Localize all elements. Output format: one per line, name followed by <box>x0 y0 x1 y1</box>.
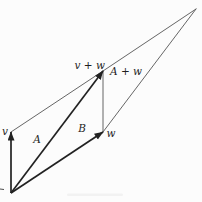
segment-vtip-to-vplusw <box>11 71 103 132</box>
label-a-plus-w: A + w <box>109 65 142 77</box>
scan-artifacts-layer <box>0 189 123 196</box>
label-v-plus-w: v + w <box>75 59 105 71</box>
page: vv + wA + wABw <box>0 0 202 202</box>
label-a: A <box>32 133 41 145</box>
label-b: B <box>77 122 86 134</box>
labels-layer: vv + wA + wABw <box>2 59 142 146</box>
label-w: w <box>107 127 116 139</box>
vector-v-plus-w-arrow <box>11 71 103 193</box>
vector-addition-diagram: vv + wA + wABw <box>0 0 202 202</box>
construction-lines-layer <box>11 9 196 132</box>
vector-arrows-layer <box>11 71 103 193</box>
vector-w-arrow <box>11 132 103 193</box>
left-edge-tick <box>0 189 4 190</box>
label-v: v <box>2 125 8 137</box>
bottom-smudge <box>67 194 123 197</box>
segment-vplusw-to-farvertex <box>103 9 196 71</box>
